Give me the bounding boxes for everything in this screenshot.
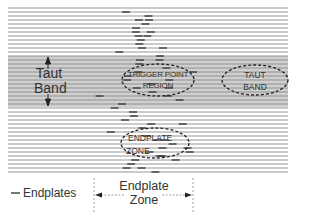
- endplate-zone-oval-label: ENDPLATE ZONE: [124, 134, 194, 155]
- trigger-point-region-label: TRIGGER POINT REGION: [116, 71, 200, 90]
- arrow-left-icon: [95, 193, 102, 198]
- endplates-legend-label: Endplates: [23, 187, 76, 199]
- band-oval-line2: BAND: [232, 83, 278, 92]
- zone-dim-line2: Zone: [118, 194, 170, 207]
- trigger-point-line2: REGION: [116, 82, 200, 90]
- band-label-line2: Band: [34, 81, 64, 95]
- trigger-point-line1: TRIGGER POINT: [116, 71, 200, 79]
- taut-band-oval-label: TAUT BAND: [232, 71, 278, 91]
- taut-oval-line1: TAUT: [232, 71, 278, 80]
- taut-label-line1: Taut: [34, 66, 64, 80]
- zone-oval-line2: ZONE: [124, 147, 194, 156]
- endplate-dim-line1: Endplate: [118, 180, 170, 193]
- taut-band-side-label: Taut Band: [34, 66, 64, 95]
- arrow-right-icon: [185, 193, 192, 198]
- endplate-zone-dimension-label: Endplate Zone: [118, 180, 170, 206]
- endplate-oval-line1: ENDPLATE: [124, 134, 194, 143]
